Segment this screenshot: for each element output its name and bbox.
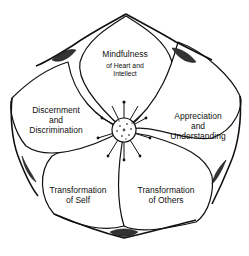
sepal-left <box>22 156 36 182</box>
petal-label-top: Mindfulness of Heart and Intellect <box>100 50 150 77</box>
petal-label-bottom-right: Transformation of Others <box>136 186 196 206</box>
petal-bottom-right <box>116 132 213 230</box>
petal-label-right: Appreciation and Understanding <box>168 112 228 141</box>
petal-label-left: Discernment and Discrimination <box>26 106 86 135</box>
petal-label-bottom-left: Transformation of Self <box>48 186 108 206</box>
